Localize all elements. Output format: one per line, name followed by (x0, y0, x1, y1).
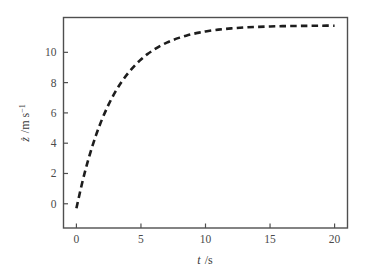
x-tick-label: 10 (200, 233, 212, 245)
x-axis-title: t/s (197, 253, 213, 267)
x-axis-tick-labels: 05101520 (74, 233, 341, 245)
x-tick-label: 0 (74, 233, 80, 245)
y-tick-label: 8 (51, 77, 57, 89)
plot-frame (64, 18, 348, 229)
y-tick-label: 0 (51, 198, 57, 210)
line-chart: 05101520 0246810 t/s ż/m s−1 (0, 0, 368, 274)
y-tick-label: 4 (51, 137, 57, 149)
y-axis-title: ż/m s−1 (18, 104, 33, 143)
data-curve-terminal-velocity (76, 26, 334, 209)
figure-container: 05101520 0246810 t/s ż/m s−1 (0, 0, 368, 274)
y-tick-label: 6 (51, 107, 57, 119)
y-tick-label: 2 (51, 167, 57, 179)
x-tick-label: 20 (329, 233, 341, 245)
y-tick-label: 10 (45, 46, 57, 58)
x-tick-label: 5 (138, 233, 144, 245)
y-axis-tick-labels: 0246810 (45, 46, 57, 209)
x-tick-label: 15 (264, 233, 276, 245)
